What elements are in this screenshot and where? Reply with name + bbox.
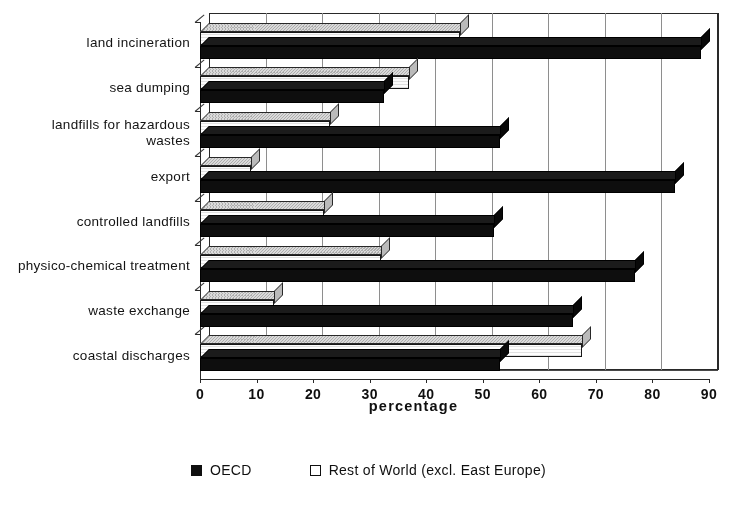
bar-oecd-4[interactable] bbox=[200, 224, 494, 237]
bar-front-face bbox=[200, 90, 384, 103]
x-axis-tick bbox=[539, 379, 540, 383]
x-axis-line bbox=[200, 379, 709, 380]
bar-top-face bbox=[200, 126, 509, 135]
x-axis-tick bbox=[483, 379, 484, 383]
bar-top-face bbox=[200, 23, 469, 32]
y-axis-category-label: coastal discharges bbox=[0, 348, 190, 364]
x-axis-tick bbox=[200, 379, 201, 383]
gridline bbox=[718, 13, 719, 370]
bar-top-face bbox=[200, 37, 710, 46]
filled-square-icon bbox=[191, 465, 202, 476]
bar-oecd-7[interactable] bbox=[200, 358, 500, 371]
y-axis-tick bbox=[195, 334, 201, 335]
x-axis-title-text: percentage bbox=[369, 398, 458, 414]
y-axis-category-label: waste exchange bbox=[0, 303, 190, 319]
bar-oecd-1[interactable] bbox=[200, 90, 384, 103]
y-axis-category-label: land incineration bbox=[0, 35, 190, 51]
bar-oecd-6[interactable] bbox=[200, 314, 573, 327]
x-axis-tick bbox=[426, 379, 427, 383]
x-axis-title: percentage bbox=[0, 398, 737, 414]
bar-top-face bbox=[200, 67, 418, 76]
plot-area: 0102030405060708090 bbox=[200, 22, 709, 379]
hollow-square-icon bbox=[310, 465, 321, 476]
y-axis-category-label: sea dumping bbox=[0, 80, 190, 96]
y-axis-category-label: physico-chemical treatment bbox=[0, 258, 190, 274]
bar-oecd-3[interactable] bbox=[200, 180, 675, 193]
bar-top-face bbox=[200, 260, 644, 269]
x-axis-tick bbox=[596, 379, 597, 383]
bar-front-face bbox=[200, 358, 500, 371]
bar-front-face bbox=[200, 314, 573, 327]
chart-legend: OECD Rest of World (excl. East Europe) bbox=[0, 462, 737, 478]
legend-item-oecd[interactable]: OECD bbox=[191, 462, 252, 478]
legend-item-rest-of-world[interactable]: Rest of World (excl. East Europe) bbox=[310, 462, 546, 478]
bar-oecd-0[interactable] bbox=[200, 46, 701, 59]
bar-front-face bbox=[200, 180, 675, 193]
bar-front-face bbox=[200, 224, 494, 237]
y-axis-category-label: controlled landfills bbox=[0, 214, 190, 230]
y-axis-category-label: landfills for hazardous wastes bbox=[0, 117, 190, 149]
bar-top-face bbox=[200, 335, 591, 344]
bar-oecd-2[interactable] bbox=[200, 135, 500, 148]
bar-top-face bbox=[200, 246, 390, 255]
bar-front-face bbox=[200, 46, 701, 59]
bar-top-face bbox=[200, 291, 283, 300]
legend-label-oecd: OECD bbox=[210, 462, 252, 478]
bar-top-face bbox=[200, 171, 684, 180]
x-axis-tick bbox=[370, 379, 371, 383]
chart-page: land incinerationsea dumpinglandfills fo… bbox=[0, 0, 737, 517]
legend-label-rest-of-world: Rest of World (excl. East Europe) bbox=[329, 462, 546, 478]
bar-front-face bbox=[200, 135, 500, 148]
x-axis-tick bbox=[313, 379, 314, 383]
bar-top-face bbox=[200, 349, 509, 358]
x-axis-tick bbox=[257, 379, 258, 383]
bar-oecd-5[interactable] bbox=[200, 269, 635, 282]
bar-top-face bbox=[200, 305, 582, 314]
bar-top-face bbox=[200, 215, 503, 224]
bar-top-face bbox=[200, 112, 339, 121]
bar-top-face bbox=[200, 81, 393, 90]
bar-front-face bbox=[200, 269, 635, 282]
x-axis-tick bbox=[652, 379, 653, 383]
y-axis-category-label: export bbox=[0, 169, 190, 185]
bar-top-face bbox=[200, 201, 333, 210]
x-axis-tick bbox=[709, 379, 710, 383]
